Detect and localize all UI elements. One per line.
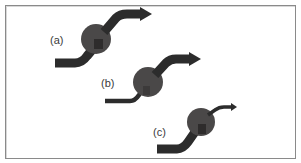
panel-b-output-arrow — [155, 59, 190, 75]
panel-a-node-flow — [55, 7, 152, 63]
panel-c-output-arrow — [208, 107, 232, 115]
panel-b-node-inner-square — [143, 86, 150, 95]
panel-c-node-flow — [157, 103, 237, 149]
panel-a-arrowhead-icon — [140, 7, 152, 21]
panel-c-arrowhead-icon — [231, 103, 237, 111]
panel-c-node-inner-square — [198, 124, 206, 134]
panel-a-node-inner-square — [94, 39, 103, 49]
panel-c-label: (c) — [153, 126, 166, 138]
panel-b-arrowhead-icon — [189, 52, 201, 66]
panel-a-label: (a) — [50, 34, 63, 46]
flow-diagram — [0, 0, 301, 163]
panel-b-label: (b) — [101, 77, 114, 89]
panel-b-node-flow — [105, 52, 201, 101]
panel-a-output-arrow — [104, 14, 141, 32]
